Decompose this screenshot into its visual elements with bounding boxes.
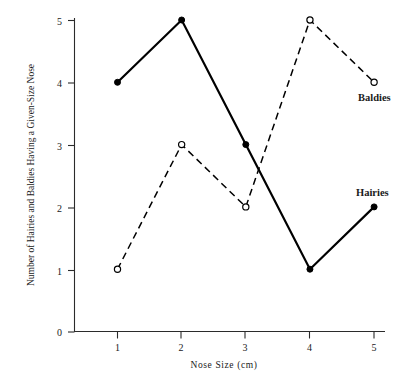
y-axis-title: Number of Hairies and Baldies Having a G… — [26, 64, 36, 286]
y-tick-label-5: 5 — [57, 16, 62, 27]
series-label-baldies: Baldies — [358, 92, 391, 103]
data-point-hairies-x4 — [307, 266, 313, 272]
series-label-hairies: Hairies — [356, 187, 389, 198]
x-tick-label-1: 1 — [115, 342, 120, 353]
line-chart-figure: 5 4 3 2 1 0 1 2 3 4 5 Nose Size (cm) Num… — [0, 0, 408, 380]
data-point-baldies-x1 — [114, 266, 120, 272]
data-point-hairies-x3 — [243, 142, 249, 148]
data-point-baldies-x2 — [179, 142, 185, 148]
y-tick-label-0: 0 — [57, 327, 62, 338]
y-tick-label-4: 4 — [57, 78, 62, 89]
x-tick-label-2: 2 — [179, 342, 184, 353]
data-point-hairies-x1 — [115, 79, 121, 85]
x-axis-title: Nose Size (cm) — [191, 360, 258, 371]
x-tick-label-5: 5 — [372, 342, 377, 353]
data-point-hairies-x2 — [179, 17, 185, 23]
y-tick-label-1: 1 — [57, 266, 62, 277]
data-point-baldies-x5 — [371, 79, 377, 85]
x-tick-label-4: 4 — [307, 342, 312, 353]
data-point-baldies-x4 — [307, 17, 313, 23]
data-point-baldies-x3 — [243, 204, 249, 210]
x-tick-label-3: 3 — [243, 342, 248, 353]
y-tick-label-3: 3 — [57, 141, 62, 152]
series-markers-hairies — [115, 17, 378, 272]
x-axis: 1 2 3 4 5 — [75, 332, 386, 354]
data-point-hairies-x5 — [371, 204, 377, 210]
chart-canvas: 5 4 3 2 1 0 1 2 3 4 5 Nose Size (cm) Num… — [0, 0, 408, 380]
y-tick-label-2: 2 — [57, 203, 62, 214]
y-axis: 5 4 3 2 1 0 — [57, 16, 75, 339]
